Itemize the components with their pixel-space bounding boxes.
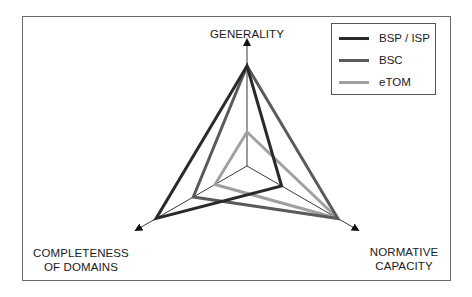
legend-label-bsc: BSC [379,54,403,66]
series-bsc [193,66,338,219]
legend-item-bsp-isp: BSP / ISP [332,30,430,46]
legend-label-bsp-isp: BSP / ISP [379,32,430,44]
axis-label-generality-text: GENERALITY [210,28,284,40]
axis-label-normative: NORMATIVE CAPACITY [364,245,444,273]
axis-label-generality: GENERALITY [197,27,297,41]
series-bsp-isp [156,66,282,219]
legend-swatch-bsp-isp [339,37,369,40]
legend-label-etom: eTOM [379,76,411,88]
axis-label-completeness-line2: OF DOMAINS [26,260,136,274]
legend-item-bsc: BSC [332,52,403,68]
axis-label-normative-line1: NORMATIVE [364,245,444,259]
chart-legend: BSP / ISP BSC eTOM [331,23,436,95]
legend-swatch-etom [339,81,369,84]
axis-label-normative-line2: CAPACITY [364,259,444,273]
series-etom [215,132,338,219]
axis-label-completeness-line1: COMPLETENESS [26,246,136,260]
legend-swatch-bsc [339,59,369,62]
legend-item-etom: eTOM [332,74,411,90]
axis-label-completeness: COMPLETENESS OF DOMAINS [26,246,136,274]
